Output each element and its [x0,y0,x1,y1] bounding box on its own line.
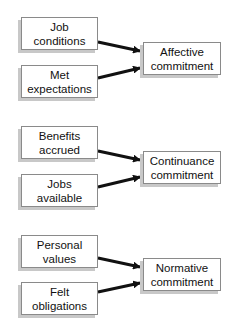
label-line: Benefits [39,129,81,143]
arrow-personal-values-to-normative [98,258,140,267]
label-line: accrued [39,143,81,157]
label-line: available [37,191,82,205]
arrow-job-conditions-to-affective [98,42,140,51]
box-personal-values: Personalvalues [21,235,98,268]
label-line: conditions [34,34,86,48]
box-met-expectations: Metexpectations [21,65,98,98]
label-line: commitment [151,59,214,73]
label-line: Affective [151,45,214,59]
label-line: commitment [150,168,215,182]
arrow-benefits-to-continuance [98,151,140,160]
label-line: Normative [151,261,214,275]
arrow-met-expectations-to-affective [98,68,140,78]
box-felt-obligations: Feltobligations [21,282,98,315]
box-benefits-accrued: Benefitsaccrued [21,126,98,159]
label-line: commitment [151,275,214,289]
label-line: Personal [37,238,82,252]
box-continuance-commitment: Continuancecommitment [143,151,221,184]
box-job-conditions: Jobconditions [21,17,98,50]
box-jobs-available: Jobsavailable [21,174,98,207]
label-line: expectations [27,82,92,96]
label-line: Job [34,20,86,34]
box-normative-commitment: Normativecommitment [143,258,221,291]
label-line: Met [27,68,92,82]
box-affective-commitment: Affectivecommitment [143,42,221,75]
label-line: values [37,252,82,266]
label-line: Continuance [150,154,215,168]
label-line: Felt [32,285,87,299]
label-line: obligations [32,299,87,313]
label-line: Jobs [37,177,82,191]
arrow-felt-obligations-to-normative [98,283,140,292]
arrow-jobs-to-continuance [98,177,140,187]
